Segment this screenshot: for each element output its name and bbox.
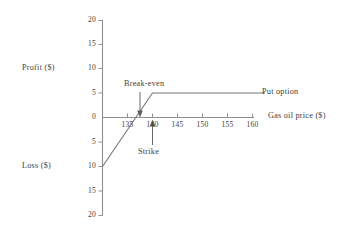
payoff-chart: 20 15 10 5 0 5 10 15 20 135 140 145 150 … [0, 0, 354, 244]
put-option-payoff-line [103, 93, 266, 167]
y-tick-label-minus-15: 15 [78, 187, 96, 195]
y-tick-label-20: 20 [78, 16, 96, 24]
y-tick-label-minus-20: 20 [78, 211, 96, 219]
x-tick-label-135: 135 [114, 121, 141, 129]
loss-axis-title: Loss ($) [22, 162, 51, 170]
x-tick-label-150: 150 [189, 121, 216, 129]
x-tick-label-160: 160 [239, 121, 266, 129]
x-tick-label-155: 155 [214, 121, 241, 129]
break-even-label: Break-even [124, 80, 164, 88]
y-tick-label-minus-10: 10 [78, 162, 96, 170]
y-tick-label-0: 0 [78, 113, 96, 121]
y-tick-label-15: 15 [78, 40, 96, 48]
y-tick-label-10: 10 [78, 64, 96, 72]
x-tick-label-145: 145 [164, 121, 191, 129]
x-tick-marks [128, 114, 253, 118]
strike-label: Strike [138, 148, 159, 156]
y-tick-label-minus-5: 5 [78, 138, 96, 146]
put-option-series-label: Put option [262, 88, 298, 96]
profit-axis-title: Profit ($) [22, 64, 55, 72]
x-tick-label-140: 140 [139, 121, 166, 129]
y-tick-label-5: 5 [78, 89, 96, 97]
price-axis-title: Gas oil price ($) [268, 112, 326, 120]
y-tick-marks [99, 21, 103, 216]
